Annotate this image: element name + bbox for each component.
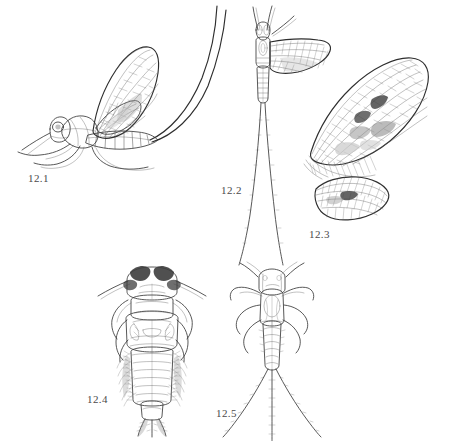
figure-label-12-3: 12.3 xyxy=(309,228,330,240)
figure-label-12-2: 12.2 xyxy=(221,184,242,196)
illustration-plate: 12.1 12.2 12.3 12.4 12.5 xyxy=(0,0,458,441)
figure-label-12-4: 12.4 xyxy=(87,393,108,405)
plate-background xyxy=(0,0,458,441)
figure-label-12-5: 12.5 xyxy=(216,407,237,419)
figure-label-12-1: 12.1 xyxy=(28,172,49,184)
plate-artwork xyxy=(0,0,458,441)
